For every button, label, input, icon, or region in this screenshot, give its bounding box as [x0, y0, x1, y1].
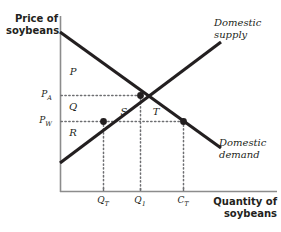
y-tick-label-pa: PA — [26, 89, 52, 102]
x-tick-label-ct: CT — [172, 195, 194, 208]
x-tick-label-q1: Q1 — [129, 195, 151, 208]
y-tick-label-pw: PW — [26, 115, 52, 128]
marker-demand-at-world-price — [180, 118, 187, 125]
marker-autarky-equilibrium — [137, 92, 144, 99]
y-axis-title: Price of soybeans — [6, 13, 58, 36]
region-label-q: Q — [66, 101, 80, 112]
domestic-supply-curve — [60, 42, 221, 163]
marker-supply-at-world-price — [100, 118, 107, 125]
x-tick-label-qt: QT — [92, 195, 114, 208]
x-axis-title: Quantity of soybeans — [197, 196, 277, 219]
domestic-demand-label: Domestic demand — [219, 137, 279, 160]
region-label-r: R — [66, 127, 80, 138]
region-label-s: S — [117, 106, 131, 117]
region-label-p: P — [66, 66, 80, 77]
region-label-t: T — [149, 106, 163, 117]
domestic-supply-label: Domestic supply — [214, 17, 278, 40]
supply-demand-chart: Price of soybeans Quantity of soybeans D… — [0, 0, 281, 232]
